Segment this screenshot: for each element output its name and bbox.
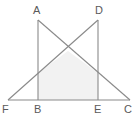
vertex-label-b: B	[34, 104, 41, 115]
vertex-label-a: A	[33, 5, 40, 16]
shaded-region	[38, 51, 98, 100]
vertex-label-c: C	[124, 104, 132, 115]
geometry-figure: A D F B E C	[0, 0, 140, 121]
vertex-label-e: E	[94, 104, 101, 115]
vertex-label-d: D	[95, 5, 103, 16]
vertex-label-f: F	[2, 104, 9, 115]
geometry-canvas	[0, 0, 140, 121]
